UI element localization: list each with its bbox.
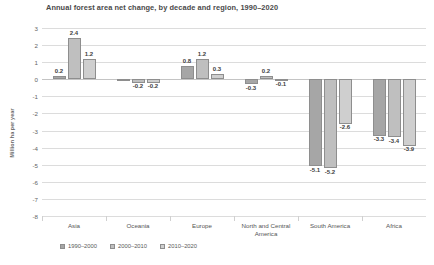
- bar-group-bars: -0.30.2-0.1: [234, 28, 298, 216]
- bar[interactable]: [83, 59, 96, 80]
- bar[interactable]: [309, 79, 322, 166]
- y-axis-tick-label: -7: [32, 195, 38, 202]
- bar-slot: 0.8: [181, 28, 194, 216]
- bar-group: 0.22.41.2Asia: [42, 28, 106, 216]
- bar-value-label: 0.8: [183, 58, 191, 64]
- bar-group-bars: 0.81.20.3: [170, 28, 234, 216]
- bar-slot: -5.1: [309, 28, 322, 216]
- x-axis-tick: [298, 216, 299, 221]
- bar-slot: [117, 28, 130, 216]
- bar-slot: -5.2: [324, 28, 337, 216]
- legend-item[interactable]: 1990–2000: [60, 243, 97, 249]
- bar-slot: 1.2: [83, 28, 96, 216]
- bar-slot: -0.2: [147, 28, 160, 216]
- bar-value-label: -3.4: [389, 138, 399, 144]
- bar[interactable]: [373, 79, 386, 135]
- bar-group-bars: 0.22.41.2: [42, 28, 106, 216]
- x-axis-tick: [42, 216, 43, 221]
- bar-group: 0.81.20.3Europe: [170, 28, 234, 216]
- legend-item[interactable]: 2010–2020: [160, 243, 197, 249]
- bar[interactable]: [181, 66, 194, 80]
- y-axis-tick-label: 2: [35, 42, 38, 49]
- bar-value-label: -0.1: [276, 81, 286, 87]
- y-axis-tick-label: -5: [32, 161, 38, 168]
- bar-slot: -0.2: [132, 28, 145, 216]
- bar-value-label: 1.2: [85, 51, 93, 57]
- bar-slot: -0.1: [275, 28, 288, 216]
- y-axis-title: Million ha per year: [9, 108, 15, 157]
- bar-value-label: -0.3: [246, 85, 256, 91]
- bar-value-label: 0.2: [262, 68, 270, 74]
- bar-group: -0.30.2-0.1North and Central America: [234, 28, 298, 216]
- bar[interactable]: [339, 79, 352, 123]
- y-axis-tick-label: 3: [35, 25, 38, 32]
- bar[interactable]: [196, 59, 209, 80]
- bar[interactable]: [147, 79, 160, 82]
- plot-area: 3210-1-2-3-4-5-6-7-8 0.22.41.2Asia-0.2-0…: [42, 28, 426, 216]
- bar[interactable]: [132, 79, 145, 82]
- bar-value-label: -3.9: [404, 146, 414, 152]
- bar[interactable]: [68, 38, 81, 79]
- bar[interactable]: [324, 79, 337, 168]
- legend-item[interactable]: 2000–2010: [110, 243, 147, 249]
- legend-label: 2000–2010: [118, 243, 147, 249]
- bar[interactable]: [211, 74, 224, 79]
- bar-slot: 0.2: [260, 28, 273, 216]
- chart-title: Annual forest area net change, by decade…: [46, 3, 278, 12]
- bar-group: -0.2-0.2Oceania: [106, 28, 170, 216]
- bar-value-label: -0.2: [148, 83, 158, 89]
- bar-value-label: 0.2: [55, 68, 63, 74]
- chart-legend: 1990–20002000–20102010–2020: [60, 243, 197, 249]
- chart-root: Annual forest area net change, by decade…: [0, 0, 434, 265]
- x-axis-category-label: Asia: [39, 222, 109, 230]
- y-axis-tick-label: 0: [35, 76, 38, 83]
- bar-value-label: -5.2: [325, 169, 335, 175]
- bar-value-label: 2.4: [70, 30, 78, 36]
- bar-group-bars: -0.2-0.2: [106, 28, 170, 216]
- y-axis-tick-label: -1: [32, 93, 38, 100]
- y-axis-tick-label: -6: [32, 178, 38, 185]
- bar-value-label: 1.2: [198, 51, 206, 57]
- x-axis-category-label: Europe: [167, 222, 237, 230]
- legend-label: 2010–2020: [168, 243, 197, 249]
- bar[interactable]: [245, 79, 258, 84]
- bar-group-bars: -3.3-3.4-3.9: [362, 28, 426, 216]
- bar-slot: -3.4: [388, 28, 401, 216]
- x-axis-category-label: North and Central America: [231, 222, 301, 238]
- bar-value-label: -0.2: [133, 83, 143, 89]
- bar[interactable]: [53, 76, 66, 79]
- bar[interactable]: [403, 79, 416, 146]
- bar[interactable]: [260, 76, 273, 79]
- bar-slot: 1.2: [196, 28, 209, 216]
- y-axis-tick-label: -2: [32, 110, 38, 117]
- y-axis-tick-label: 1: [35, 59, 38, 66]
- x-axis-tick: [170, 216, 171, 221]
- x-axis-tick: [234, 216, 235, 221]
- bar-group-bars: -5.1-5.2-2.6: [298, 28, 362, 216]
- x-axis-category-label: Oceania: [103, 222, 173, 230]
- bar[interactable]: [117, 79, 130, 81]
- bar-value-label: 0.3: [213, 66, 221, 72]
- legend-swatch-icon: [110, 244, 115, 249]
- bar[interactable]: [388, 79, 401, 137]
- bar-slot: 0.3: [211, 28, 224, 216]
- legend-label: 1990–2000: [68, 243, 97, 249]
- bar-slot: 0.2: [53, 28, 66, 216]
- bar-slot: -2.6: [339, 28, 352, 216]
- y-axis-tick-label: -3: [32, 127, 38, 134]
- bar-slot: -3.9: [403, 28, 416, 216]
- y-axis-tick-label: -4: [32, 144, 38, 151]
- x-axis-category-label: Africa: [359, 222, 429, 230]
- bar-value-label: -5.1: [310, 167, 320, 173]
- bar-value-label: -3.3: [374, 136, 384, 142]
- x-axis-tick: [362, 216, 363, 221]
- bar-groups: 0.22.41.2Asia-0.2-0.2Oceania0.81.20.3Eur…: [42, 28, 426, 216]
- x-axis-category-label: South America: [295, 222, 365, 230]
- bar-group: -3.3-3.4-3.9Africa: [362, 28, 426, 216]
- y-axis-tick-label: -8: [32, 213, 38, 220]
- bar-slot: -0.3: [245, 28, 258, 216]
- bar-slot: -3.3: [373, 28, 386, 216]
- legend-swatch-icon: [60, 244, 65, 249]
- bar-value-label: -2.6: [340, 124, 350, 130]
- x-axis-tick: [106, 216, 107, 221]
